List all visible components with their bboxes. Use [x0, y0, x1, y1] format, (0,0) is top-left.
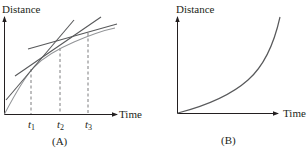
panel-b-x-axis-label: Time [283, 107, 306, 119]
t2-label: t2 [57, 118, 64, 132]
t3-label: t3 [85, 118, 92, 132]
panel-b-y-axis-label: Distance [176, 3, 215, 15]
panel-b: Distance Time (B) [176, 3, 306, 147]
panel-b-caption: (B) [221, 134, 236, 147]
tangent-line-t3 [28, 24, 117, 49]
panel-a-caption: (A) [52, 135, 68, 148]
panel-a-x-axis-label: Time [119, 108, 142, 120]
panel-a: Distance Time t1 t2 t3 (A) [2, 3, 142, 148]
panel-b-distance-curve [178, 17, 280, 113]
panel-a-y-axis-label: Distance [2, 3, 41, 15]
tangent-line-t1 [6, 20, 74, 100]
t1-label: t1 [28, 118, 35, 132]
distance-time-diagram: Distance Time t1 t2 t3 (A) Distance Time… [0, 0, 307, 152]
